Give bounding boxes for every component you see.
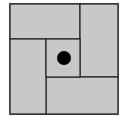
center-dot xyxy=(57,51,71,65)
top-left-rect xyxy=(10,4,80,39)
right-rect xyxy=(80,4,118,77)
pinwheel-diagram xyxy=(0,0,125,129)
bottom-right-rect xyxy=(46,77,118,114)
left-rect xyxy=(10,39,46,114)
